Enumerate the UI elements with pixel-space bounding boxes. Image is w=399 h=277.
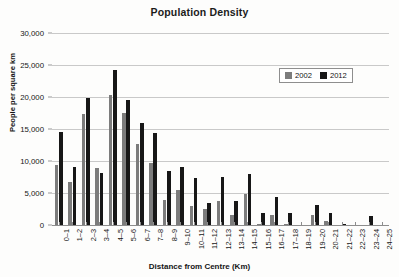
bar-group bbox=[227, 33, 240, 225]
y-tick-label: 0 bbox=[40, 221, 44, 230]
x-tick-mark bbox=[140, 222, 141, 226]
bar-2002-6-7 bbox=[136, 144, 140, 225]
x-tick-label: 13–14 bbox=[237, 229, 246, 250]
bar-2012-16-17 bbox=[275, 197, 279, 225]
x-tick-mark bbox=[59, 222, 60, 226]
chart-title: Population Density bbox=[0, 6, 399, 18]
bar-2002-2-3 bbox=[82, 114, 86, 225]
bar-2012-1-2 bbox=[73, 167, 77, 225]
bar-2012-10-11 bbox=[194, 178, 198, 225]
x-tick-label: 5–6 bbox=[129, 229, 138, 241]
bar-group bbox=[376, 33, 389, 225]
bar-group bbox=[146, 33, 159, 225]
bar-group bbox=[65, 33, 78, 225]
x-tick-mark bbox=[328, 222, 329, 226]
bar-group bbox=[335, 33, 348, 225]
bar-2002-14-15 bbox=[244, 194, 248, 225]
bar-group bbox=[254, 33, 267, 225]
x-tick-mark bbox=[194, 222, 195, 226]
x-tick-label: 23–24 bbox=[372, 229, 381, 250]
x-tick-mark bbox=[301, 222, 302, 226]
x-tick-mark bbox=[342, 222, 343, 226]
bar-group bbox=[52, 33, 65, 225]
bar-2002-4-5 bbox=[109, 95, 113, 225]
legend-label-2002: 2002 bbox=[295, 71, 312, 80]
y-axis-tick-labels: 05,00010,00015,00020,00025,00030,000 bbox=[0, 33, 48, 225]
bar-group bbox=[349, 33, 362, 225]
legend-item-2002: 2002 bbox=[285, 71, 312, 80]
legend-swatch-icon-2002 bbox=[285, 72, 292, 79]
x-tick-mark bbox=[369, 222, 370, 226]
y-tick-label: 20,000 bbox=[20, 93, 44, 102]
x-tick-label: 20–21 bbox=[331, 229, 340, 250]
bar-2002-5-6 bbox=[122, 113, 126, 225]
x-tick-label: 10–11 bbox=[197, 229, 206, 249]
x-tick-label: 22–23 bbox=[358, 229, 367, 250]
bar-group bbox=[106, 33, 119, 225]
y-tick-label: 5,000 bbox=[24, 189, 44, 198]
x-tick-mark bbox=[86, 222, 87, 226]
x-tick-label: 2–3 bbox=[89, 229, 98, 241]
x-tick-label: 17–18 bbox=[291, 229, 300, 250]
bar-group bbox=[160, 33, 173, 225]
x-tick-label: 11–12 bbox=[210, 229, 219, 249]
bar-2012-9-10 bbox=[180, 167, 184, 225]
x-tick-label: 16–17 bbox=[277, 229, 286, 250]
x-tick-mark bbox=[221, 222, 222, 226]
bar-2012-0-1 bbox=[59, 132, 63, 225]
bar-group bbox=[119, 33, 132, 225]
bar-group bbox=[322, 33, 335, 225]
x-tick-label: 24–25 bbox=[385, 229, 394, 250]
x-tick-mark bbox=[355, 222, 356, 226]
x-tick-label: 18–19 bbox=[304, 229, 313, 250]
bar-2012-4-5 bbox=[113, 70, 117, 225]
bar-group bbox=[173, 33, 186, 225]
bar-group bbox=[92, 33, 105, 225]
x-tick-label: 7–8 bbox=[156, 229, 165, 241]
x-tick-label: 12–13 bbox=[224, 229, 233, 250]
x-tick-label: 0–1 bbox=[62, 229, 71, 241]
bar-2002-1-2 bbox=[68, 182, 72, 225]
population-density-chart: Population Density People per square km … bbox=[0, 0, 399, 277]
x-axis-title: Distance from Centre (Km) bbox=[0, 262, 399, 271]
bar-2012-3-4 bbox=[100, 173, 104, 225]
x-tick-mark bbox=[274, 222, 275, 226]
x-tick-label: 6–7 bbox=[143, 229, 152, 241]
legend-item-2012: 2012 bbox=[320, 71, 347, 80]
bar-2012-6-7 bbox=[140, 123, 144, 225]
x-tick-mark bbox=[99, 222, 100, 226]
y-tick-label: 10,000 bbox=[20, 157, 44, 166]
x-tick-mark bbox=[288, 222, 289, 226]
x-tick-label: 8–9 bbox=[170, 229, 179, 241]
x-tick-mark bbox=[72, 222, 73, 226]
bar-group bbox=[200, 33, 213, 225]
bar-group bbox=[214, 33, 227, 225]
y-tick-label: 25,000 bbox=[20, 61, 44, 70]
bars-layer bbox=[52, 33, 389, 225]
x-tick-label: 9–10 bbox=[183, 229, 192, 245]
x-tick-label: 14–15 bbox=[250, 229, 259, 250]
x-tick-label: 19–20 bbox=[318, 229, 327, 250]
x-tick-mark bbox=[113, 222, 114, 226]
x-tick-mark bbox=[261, 222, 262, 226]
bar-2012-5-6 bbox=[126, 100, 130, 225]
y-tick-label: 15,000 bbox=[20, 125, 44, 134]
bar-group bbox=[79, 33, 92, 225]
bar-group bbox=[362, 33, 375, 225]
y-tick-label: 30,000 bbox=[20, 29, 44, 38]
x-tick-mark bbox=[126, 222, 127, 226]
x-tick-mark bbox=[180, 222, 181, 226]
x-tick-mark bbox=[207, 222, 208, 226]
bar-group bbox=[133, 33, 146, 225]
bar-group bbox=[295, 33, 308, 225]
chart-legend: 2002 2012 bbox=[279, 68, 353, 83]
bar-2002-7-8 bbox=[149, 163, 153, 225]
bar-group bbox=[281, 33, 294, 225]
bar-2002-9-10 bbox=[176, 190, 180, 225]
x-tick-mark bbox=[247, 222, 248, 226]
legend-label-2012: 2012 bbox=[330, 71, 347, 80]
bar-group bbox=[268, 33, 281, 225]
x-tick-mark bbox=[234, 222, 235, 226]
x-tick-label: 4–5 bbox=[116, 229, 125, 241]
bar-2002-0-1 bbox=[55, 165, 59, 225]
